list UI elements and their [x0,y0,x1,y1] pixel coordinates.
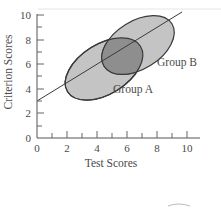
y-axis-title: Criterion Scores [2,34,14,110]
x-tick-label: 4 [94,142,100,154]
x-tick-label: 0 [34,142,40,154]
y-tick-label: 10 [20,9,32,21]
x-tick-label: 6 [124,142,130,154]
x-tick-label: 10 [182,142,194,154]
y-tick-label: 4 [26,83,32,95]
x-axis-title: Test Scores [85,157,138,169]
x-tick-label: 8 [154,142,160,154]
scan-artifact [168,204,190,206]
y-tick-label: 2 [26,107,32,119]
x-ticks [52,131,187,138]
group-a-label: Group A [113,83,154,96]
y-tick-label: 6 [26,58,32,70]
x-tick-label: 2 [64,142,70,154]
y-tick-label: 8 [26,34,32,46]
y-tick-label: 0 [26,132,32,144]
y-ticks [37,15,44,126]
group-b-label: Group B [157,56,197,69]
scatter-chart: 10 8 6 4 2 0 0 2 4 6 8 10 Test Scores Cr… [0,0,221,208]
